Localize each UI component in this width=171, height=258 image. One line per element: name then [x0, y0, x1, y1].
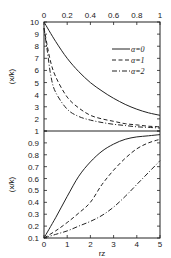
bottom-y-tick: 0.3: [28, 210, 40, 219]
plot-frame: [44, 22, 160, 238]
bottom-x-tick: 4: [135, 240, 140, 249]
legend-entry: α=2: [131, 67, 145, 76]
top-x-tick: 1: [158, 11, 163, 20]
top-y-tick: 7: [35, 54, 40, 63]
top-y-tick: 5: [35, 79, 40, 88]
bottom-series-line: [44, 135, 160, 238]
top-series-line: [44, 28, 160, 128]
top-series-line: [44, 28, 160, 127]
top-x-tick: 0.4: [85, 11, 97, 20]
bottom-y-tick: 0.8: [28, 151, 40, 160]
bottom-x-tick: 2: [88, 240, 93, 249]
top-x-tick: 0.2: [62, 11, 74, 20]
bottom-y-tick: 0.5: [28, 186, 40, 195]
top-x-tick: 0.6: [108, 11, 120, 20]
bottom-x-tick: 0: [42, 240, 47, 249]
bottom-x-tick: 3: [111, 240, 116, 249]
bottom-y-tick: 0.6: [28, 175, 40, 184]
bottom-y-tick: 0.7: [28, 163, 40, 172]
legend-entry: α=1: [131, 56, 145, 65]
chart: 00.20.40.60.8123456789100123450.10.20.30…: [0, 0, 171, 258]
bottom-series-line: [44, 139, 160, 238]
bottom-y-tick: 0.1: [28, 234, 40, 243]
top-ylabel: (x/k): [7, 68, 16, 84]
top-y-tick: 2: [35, 115, 40, 124]
top-x-tick: 0: [42, 11, 47, 20]
bottom-y-tick: 0.9: [28, 139, 40, 148]
legend-entry: α=0: [131, 45, 145, 54]
top-x-tick: 0.8: [131, 11, 143, 20]
bottom-ylabel: (x/k): [7, 176, 16, 192]
top-y-tick: 8: [35, 42, 40, 51]
top-y-tick: 10: [30, 18, 39, 27]
bottom-x-tick: 1: [65, 240, 70, 249]
top-y-tick: 6: [35, 66, 40, 75]
top-y-tick: 9: [35, 30, 40, 39]
bottom-y-tick: 0.4: [28, 198, 40, 207]
bottom-xlabel: rz: [99, 249, 106, 258]
top-y-tick: 4: [35, 91, 40, 100]
top-y-tick: 3: [35, 103, 40, 112]
bottom-y-tick: 1: [35, 127, 40, 136]
bottom-y-tick: 0.2: [28, 222, 40, 231]
bottom-x-tick: 5: [158, 240, 163, 249]
